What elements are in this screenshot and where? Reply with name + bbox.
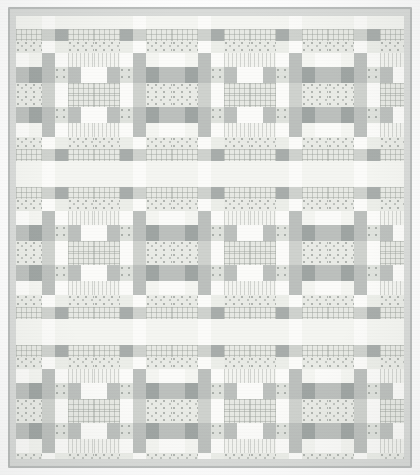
quilt-patch-top-sash-right [367, 319, 404, 332]
quilt-patch-dot-band-pale [276, 41, 289, 53]
quilt-patch-center-dot [211, 423, 224, 439]
quilt-patch-right-white [250, 225, 263, 241]
quilt-patch-center-post-top [354, 423, 367, 452]
quilt-patch-bottom-post [354, 95, 367, 107]
quilt-patch-left-arm-upper [159, 281, 172, 294]
quilt-patch-dot-band-pale [55, 41, 68, 53]
quilt-patch-left-dark-square [16, 225, 29, 241]
quilt-patch-right-white [237, 225, 250, 241]
quilt-patch-center-white-top [211, 281, 224, 294]
quilt-patch-plaid-band-post [198, 149, 211, 161]
quilt-patch-plaid-band-post [133, 345, 146, 357]
quilt-patch-right-grey [263, 107, 276, 123]
quilt-patch-center-dot [367, 67, 380, 83]
quilt-patch-top-sash-left [328, 174, 354, 187]
quilt-patch-right-white [94, 423, 107, 439]
quilt-patch-dot-band-right [380, 357, 404, 369]
quilt-patch-dot-band-left [302, 357, 328, 369]
quilt-patch-plaid-band-dark [55, 187, 68, 199]
quilt-patch-dot-band-pale [120, 357, 133, 369]
quilt-patch-dot-band-pale [120, 41, 133, 53]
quilt-patch-plaid-band-post [354, 307, 367, 319]
quilt-patch-bottom-post [354, 253, 367, 265]
quilt-patch-center-post-top [198, 369, 211, 398]
quilt-patch-plaid-band-post [42, 187, 55, 199]
quilt-patch-bottom-post [289, 411, 302, 423]
quilt-photo [0, 0, 420, 475]
quilt-patch-left-arm-cream [146, 281, 159, 294]
quilt-patch-left-arm-cream [29, 439, 42, 452]
quilt-patch-plaid-band-post [354, 149, 367, 161]
quilt-patch-dot-band-right [94, 199, 120, 211]
quilt-patch-plaid-band-right [380, 29, 404, 41]
quilt-patch-top-sash-mid [198, 332, 211, 345]
quilt-patch-dot-band-white [354, 137, 367, 149]
quilt-patch-dot-band-left [146, 41, 172, 53]
quilt-patch-right-white [94, 225, 107, 241]
quilt-patch-center-dot [276, 67, 289, 83]
quilt-patch-right-arm-upper [94, 369, 120, 382]
quilt-patch-dot-band-left [146, 137, 172, 149]
quilt-patch-left-arm-cream [341, 281, 354, 294]
quilt-patch-left-deep-square [302, 383, 315, 399]
quilt-patch-right-arm-upper [68, 439, 94, 452]
quilt-patch-bottom-sash-left [146, 399, 172, 411]
quilt-patch-bottom-sash-left [16, 253, 42, 265]
quilt-patch-dot-band-left [172, 453, 198, 459]
quilt-patch-right-white [81, 67, 94, 83]
quilt-patch-left-dark-square [315, 225, 328, 241]
quilt-patch-plaid-band-left [16, 149, 42, 161]
quilt-patch-bottom-post [133, 253, 146, 265]
quilt-patch-right-grey [224, 423, 237, 439]
quilt-patch-bottom-sash-right [94, 241, 120, 253]
quilt-patch-bottom-sash-right [68, 253, 94, 265]
quilt-patch-top-sash-left [16, 161, 42, 174]
quilt-patch-right-arm-upper [94, 123, 120, 136]
quilt-patch-left-deep-square [146, 225, 159, 241]
quilt-patch-right-arm-upper [250, 211, 276, 224]
quilt-patch-bottom-post [289, 399, 302, 411]
quilt-patch-plaid-band-left [328, 149, 354, 161]
quilt-patch-plaid-band-left [146, 149, 172, 161]
quilt-patch-bottom-sash-left [302, 95, 328, 107]
quilt-patch-right-arm-upper [250, 123, 276, 136]
quilt-patch-dot-band-right [224, 357, 250, 369]
quilt-block [328, 253, 404, 332]
quilt-patch-right-grey [263, 67, 276, 83]
quilt-patch-bottom-white [211, 253, 224, 265]
quilt-patch-left-arm-upper [315, 211, 328, 224]
quilt-patch-top-sash-right [250, 16, 289, 29]
quilt-patch-left-deep-square [29, 67, 42, 83]
quilt-patch-plaid-band-dark [367, 149, 380, 161]
quilt-block [172, 332, 250, 411]
quilt-patch-plaid-band-post [289, 307, 302, 319]
quilt-patch-dot-band-pale [55, 199, 68, 211]
quilt-patch-top-sash-right [211, 319, 250, 332]
quilt-patch-dot-band-pale [367, 137, 380, 149]
quilt-patch-bottom-sash-left [328, 411, 354, 423]
quilt-patch-top-sash-left [328, 16, 354, 29]
quilt-patch-bottom-sash-left [172, 411, 198, 423]
quilt-patch-dot-band-white [198, 41, 211, 53]
quilt-patch-bottom-sash-right [380, 241, 404, 253]
quilt-patch-center-dot [120, 67, 133, 83]
quilt-patch-dot-band-right [94, 453, 120, 459]
quilt-patch-top-sash-left [146, 332, 172, 345]
quilt-patch-center-white-top [276, 53, 289, 66]
quilt-patch-bottom-sash-right [250, 95, 276, 107]
quilt-patch-bottom-sash-left [172, 83, 198, 95]
quilt-block [250, 332, 328, 411]
quilt-patch-plaid-band-post [289, 29, 302, 41]
quilt-patch-plaid-band-post [42, 307, 55, 319]
quilt-patch-dot-band-right [68, 199, 94, 211]
quilt-patch-center-white-top [55, 53, 68, 66]
quilt-patch-center-post-top [289, 423, 302, 452]
quilt-patch-top-sash-right [55, 332, 94, 345]
quilt-patch-right-grey [107, 107, 120, 123]
quilt-patch-center-post-top [198, 107, 211, 136]
quilt-patch-right-arm-upper [380, 123, 404, 136]
quilt-patch-left-dark-square [328, 67, 341, 83]
quilt-patch-dot-band-left [302, 41, 328, 53]
quilt-patch-bottom-white [367, 411, 380, 423]
quilt-patch-dot-band-left [16, 357, 42, 369]
